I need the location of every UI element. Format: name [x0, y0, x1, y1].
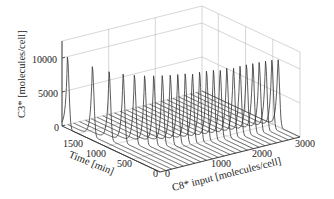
waterfall-plot: 10000 5000 0 1500 1000 500 0 0 1000 2000… [0, 0, 334, 199]
y-tick-500: 500 [117, 158, 132, 169]
z-tick-10000: 10000 [32, 54, 57, 65]
z-tick-5000: 5000 [38, 88, 58, 99]
x-tick-0: 0 [165, 168, 170, 179]
z-axis-label: C3* [molecules/cell] [16, 30, 27, 118]
x-tick-3000: 3000 [295, 138, 315, 149]
y-tick-0: 0 [153, 168, 158, 179]
y-tick-1500: 1500 [63, 138, 83, 149]
z-tick-0: 0 [54, 122, 59, 133]
